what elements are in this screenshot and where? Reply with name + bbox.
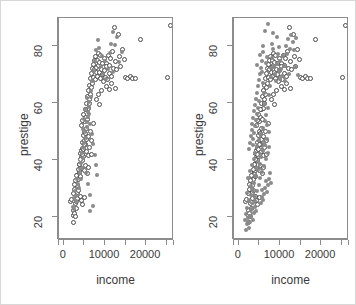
data-point-imputed [86, 182, 90, 186]
y-tick [52, 216, 57, 217]
data-point-imputed [259, 66, 263, 70]
data-point-imputed [266, 151, 270, 155]
panel-right: 20406080 01000020000 prestige income [179, 1, 356, 305]
y-tick [52, 45, 57, 46]
data-point-imputed [247, 198, 251, 202]
data-point-observed [133, 76, 138, 81]
data-point-observed [288, 59, 293, 64]
data-point-imputed [256, 106, 260, 110]
data-point-observed [272, 102, 277, 107]
x-tick [233, 240, 234, 245]
data-point-imputed [287, 72, 291, 76]
y-tick-label: 60 [213, 102, 225, 114]
data-point-imputed [261, 81, 265, 85]
data-point-observed [274, 88, 279, 93]
data-point-imputed [106, 67, 110, 71]
data-point-imputed [262, 164, 266, 168]
y-tick [52, 159, 57, 160]
y-tick-label: 40 [38, 159, 50, 171]
data-point-observed [99, 88, 104, 93]
data-point-imputed [111, 30, 115, 34]
data-point-imputed [245, 206, 249, 210]
x-tick [166, 240, 167, 245]
x-tick [320, 240, 321, 245]
data-point-imputed [115, 35, 119, 39]
data-point-imputed [246, 176, 250, 180]
x-tick [83, 240, 84, 245]
data-point-imputed [268, 84, 272, 88]
data-point-imputed [294, 36, 298, 40]
data-point-imputed [108, 51, 112, 55]
data-point-imputed [113, 43, 117, 47]
data-point-imputed [93, 153, 97, 157]
data-point-imputed [261, 126, 265, 130]
data-point-imputed [103, 59, 107, 63]
data-point-imputed [100, 54, 104, 58]
x-tick [63, 240, 64, 245]
data-point-observed [288, 86, 293, 91]
y-tick-label: 80 [38, 45, 50, 57]
x-tick-label: 0 [60, 248, 66, 260]
figure-container: 20406080 01000020000 prestige income 204… [0, 0, 356, 305]
data-point-imputed [97, 46, 101, 50]
x-axis-title-left: income [58, 273, 173, 287]
data-point-imputed [291, 40, 295, 44]
data-point-imputed [117, 60, 121, 64]
data-point-imputed [266, 22, 270, 26]
data-point-observed [165, 75, 170, 80]
x-tick-label: 20000 [130, 248, 161, 260]
data-point-imputed [277, 45, 281, 49]
data-point-observed [97, 102, 102, 107]
x-axis-line [233, 239, 348, 240]
data-point-imputed [268, 171, 272, 175]
data-point-imputed [96, 38, 100, 42]
data-point-imputed [286, 37, 290, 41]
data-point-observed [80, 202, 85, 207]
data-point-imputed [250, 163, 254, 167]
data-point-imputed [261, 198, 265, 202]
data-point-imputed [283, 79, 287, 83]
data-point-imputed [260, 59, 264, 63]
x-axis-title-right: income [233, 273, 348, 287]
data-point-imputed [111, 70, 115, 74]
data-point-observed [71, 220, 76, 225]
x-axis-line [58, 239, 173, 240]
x-tick [238, 240, 239, 245]
data-point-imputed [269, 75, 273, 79]
data-point-imputed [267, 145, 271, 149]
y-tick [227, 216, 232, 217]
x-tick [58, 240, 59, 245]
data-point-observed [113, 86, 118, 91]
data-point-imputed [87, 112, 91, 116]
x-tick [125, 240, 126, 245]
data-point-observed [308, 76, 313, 81]
y-tick [227, 159, 232, 160]
data-point-imputed [82, 141, 86, 145]
data-point-observed [168, 23, 173, 28]
x-tick [348, 240, 349, 245]
data-point-imputed [269, 181, 273, 185]
data-point-observed [107, 87, 112, 92]
data-point-imputed [275, 35, 279, 39]
data-point-imputed [255, 112, 259, 116]
data-point-imputed [249, 184, 253, 188]
y-tick-label: 40 [213, 159, 225, 171]
data-point-imputed [265, 190, 269, 194]
data-point-observed [82, 195, 87, 200]
data-point-imputed [265, 137, 269, 141]
data-point-imputed [253, 124, 257, 128]
data-point-imputed [289, 33, 293, 37]
x-tick [104, 240, 105, 245]
data-point-imputed [251, 218, 255, 222]
data-point-observed [122, 57, 127, 62]
data-point-imputed [258, 176, 262, 180]
x-tick-label: 10000 [89, 248, 120, 260]
data-point-imputed [73, 189, 77, 193]
data-point-imputed [76, 182, 80, 186]
data-point-imputed [264, 157, 268, 161]
data-point-imputed [120, 50, 124, 54]
x-tick [300, 240, 301, 245]
data-point-imputed [270, 42, 274, 46]
data-point-imputed [91, 204, 95, 208]
y-tick-label: 20 [213, 216, 225, 228]
